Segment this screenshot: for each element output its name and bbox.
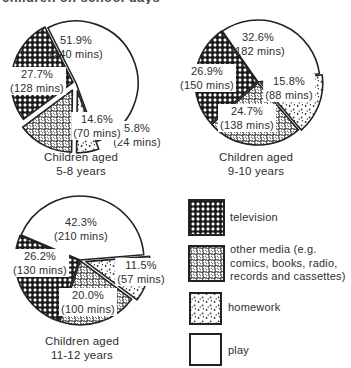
legend-swatch-television — [188, 199, 225, 236]
legend-swatch-other-media — [188, 245, 225, 282]
pct-label: 42.3% — [54, 215, 108, 229]
legend-label-other-media: other media (e.g. comics, books, radio, … — [230, 243, 351, 284]
pie-caption-line1: Children aged — [44, 150, 118, 164]
legend-swatch-play — [189, 333, 222, 366]
pie1-label-other_media: 24.7%(138 mins) — [218, 104, 276, 132]
mins-label: (150 mins) — [180, 78, 234, 92]
mins-label: (182 mins) — [231, 44, 285, 58]
pie-caption-line2: 11-12 years — [45, 348, 119, 362]
pct-label: 32.6% — [231, 30, 285, 44]
pct-label: 20.0% — [61, 288, 115, 302]
pie-caption-5-8: Children aged 5-8 years — [44, 150, 118, 178]
mins-label: (100 mins) — [61, 302, 115, 316]
mins-label: (138 mins) — [220, 118, 274, 132]
mins-label: (88 mins) — [265, 88, 313, 102]
mins-label: (70 mins) — [73, 126, 121, 140]
pct-label: 14.6% — [73, 112, 121, 126]
pie0-label-other_media: 14.6%(70 mins) — [71, 112, 123, 140]
pie-caption-line1: Children aged — [219, 150, 293, 164]
pie-caption-11-12: Children aged 11-12 years — [45, 334, 119, 362]
pie2-label-homework: 11.5%(57 mins) — [115, 258, 167, 286]
pie2-label-other_media: 20.0%(100 mins) — [59, 288, 117, 316]
pct-label: 26.2% — [13, 249, 67, 263]
mins-label: (210 mins) — [54, 229, 108, 243]
legend-swatch-homework — [189, 292, 222, 325]
pct-label: 15.8% — [265, 74, 313, 88]
pie-chart-figure: children on school days 51.9%(240 mins)5 — [0, 0, 351, 368]
pct-label: 11.5% — [117, 258, 165, 272]
mins-label: (240 mins) — [49, 47, 103, 61]
mins-label: (130 mins) — [13, 263, 67, 277]
legend-label-television: television — [230, 211, 278, 225]
pct-label: 26.9% — [180, 64, 234, 78]
pie-caption-9-10: Children aged 9-10 years — [219, 150, 293, 178]
mins-label: (57 mins) — [117, 272, 165, 286]
pie-caption-line2: 9-10 years — [219, 164, 293, 178]
pct-label: 27.7% — [10, 67, 64, 81]
mins-label: (128 mins) — [10, 81, 64, 95]
pie0-label-play: 51.9%(240 mins) — [49, 33, 103, 61]
pct-label: 24.7% — [220, 104, 274, 118]
pie1-label-television: 26.9%(150 mins) — [178, 64, 236, 92]
pie2-label-television: 26.2%(130 mins) — [11, 249, 69, 277]
pie-caption-line2: 5-8 years — [44, 164, 118, 178]
pie-caption-line1: Children aged — [45, 334, 119, 348]
pie0-label-television: 27.7%(128 mins) — [8, 67, 66, 95]
pie1-label-homework: 15.8%(88 mins) — [263, 74, 315, 102]
legend-label-homework: homework — [228, 301, 280, 315]
legend-label-play: play — [228, 344, 249, 358]
pie2-label-play: 42.3%(210 mins) — [54, 215, 108, 243]
pie1-label-play: 32.6%(182 mins) — [231, 30, 285, 58]
pct-label: 51.9% — [49, 33, 103, 47]
